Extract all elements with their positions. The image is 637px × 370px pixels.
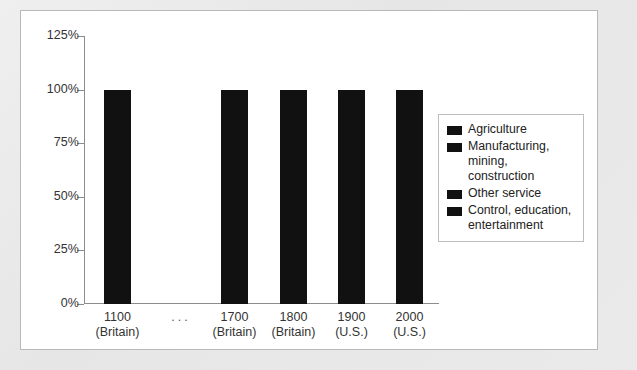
x-label-year: 1100 xyxy=(77,310,158,325)
y-axis-line xyxy=(84,36,85,304)
cropped-title-sliver xyxy=(60,0,480,4)
y-tick-label: 0% xyxy=(61,296,79,310)
plot-area: 125% 100% 75% 50% 25% xyxy=(84,36,439,304)
x-label-year: 2000 xyxy=(369,310,450,325)
legend-item-manufacturing-mining-construction[interactable]: Manufacturing, mining, construction xyxy=(447,139,576,184)
bar-1100-britain[interactable] xyxy=(104,90,131,304)
bar-2000-us[interactable] xyxy=(396,90,423,304)
bar-1800-britain[interactable] xyxy=(280,90,307,304)
y-tick-label: 25% xyxy=(54,242,79,256)
y-tick-label: 75% xyxy=(54,135,79,149)
legend-item-other-service[interactable]: Other service xyxy=(447,186,576,201)
legend-item-label: Manufacturing, mining, construction xyxy=(468,139,576,184)
chart-legend: Agriculture Manufacturing, mining, const… xyxy=(438,114,584,242)
legend-swatch-icon xyxy=(447,126,462,135)
legend-item-label: Other service xyxy=(468,186,541,201)
chart-panel: 125% 100% 75% 50% 25% xyxy=(20,10,598,350)
x-label-place: (U.S.) xyxy=(369,325,450,340)
legend-item-label: Agriculture xyxy=(468,122,527,137)
y-tick-label: 125% xyxy=(47,28,79,42)
y-tick-label: 50% xyxy=(54,189,79,203)
x-label-place: (Britain) xyxy=(77,325,158,340)
legend-swatch-icon xyxy=(447,190,462,199)
legend-item-agriculture[interactable]: Agriculture xyxy=(447,122,576,137)
bar-chart: 125% 100% 75% 50% 25% xyxy=(21,11,599,351)
figure-page: 125% 100% 75% 50% 25% xyxy=(0,0,637,370)
y-tick-label: 100% xyxy=(47,82,79,96)
legend-swatch-icon xyxy=(447,143,462,152)
x-axis-label-1100: 1100 (Britain) xyxy=(77,310,158,340)
x-axis-label-2000: 2000 (U.S.) xyxy=(369,310,450,340)
x-axis-line xyxy=(84,303,439,304)
bar-1900-us[interactable] xyxy=(338,90,365,304)
legend-item-control-education-entertainment[interactable]: Control, education, entertainment xyxy=(447,203,576,233)
bar-1700-britain[interactable] xyxy=(221,90,248,304)
legend-item-label: Control, education, entertainment xyxy=(468,203,571,233)
legend-swatch-icon xyxy=(447,207,462,216)
